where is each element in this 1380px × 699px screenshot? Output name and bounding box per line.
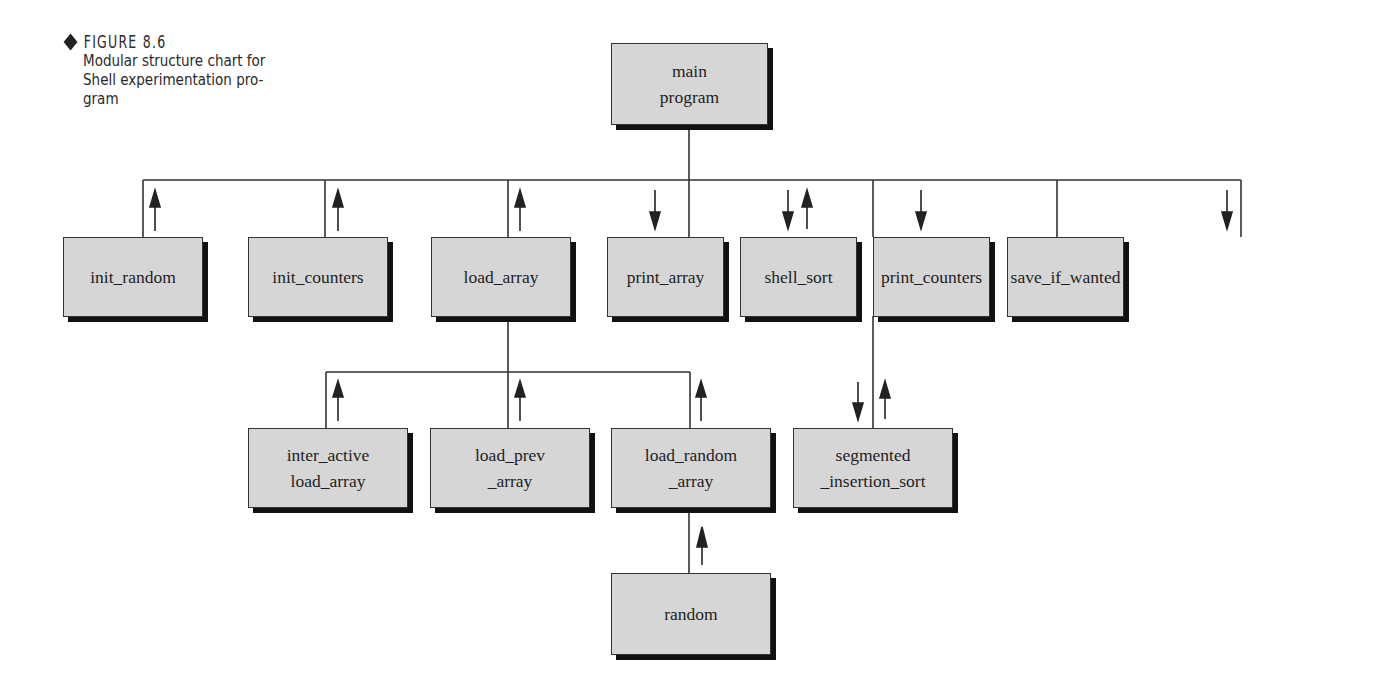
arrow-up-icon	[515, 381, 525, 421]
arrow-up-icon	[697, 527, 707, 565]
node-main-program: main program	[611, 43, 768, 125]
arrow-up-icon	[802, 190, 812, 229]
node-save-if-wanted: save_if_wanted	[1007, 237, 1124, 317]
structure-chart: FIGURE 8.6 Modular structure chart for S…	[0, 0, 1380, 699]
node-load-random-array: load_random _array	[611, 428, 771, 508]
arrow-up-icon	[333, 190, 343, 231]
node-load-array: load_array	[431, 237, 571, 317]
node-segmented-insertion-sort: segmented _insertion_sort	[793, 428, 953, 508]
node-init-random: init_random	[63, 237, 203, 317]
node-print-array: print_array	[607, 237, 724, 317]
arrow-down-icon	[783, 190, 793, 229]
arrow-down-icon	[853, 382, 863, 420]
arrow-up-icon	[515, 190, 525, 231]
arrow-up-icon	[333, 381, 343, 421]
arrow-up-icon	[150, 190, 160, 231]
node-init-counters: init_counters	[248, 237, 388, 317]
node-shell-sort: shell_sort	[740, 237, 857, 317]
arrow-down-icon	[1222, 190, 1232, 229]
arrow-up-icon	[880, 381, 890, 419]
node-print-counters: print_counters	[873, 237, 990, 317]
arrow-down-icon	[650, 190, 660, 229]
node-inter-active-load-array: inter_active load_array	[248, 428, 408, 508]
arrow-up-icon	[696, 381, 706, 421]
node-random: random	[611, 573, 771, 655]
arrow-down-icon	[916, 190, 926, 229]
node-load-prev-array: load_prev _array	[430, 428, 590, 508]
